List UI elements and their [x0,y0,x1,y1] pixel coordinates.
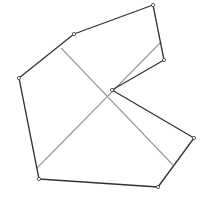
vertex-marker-8 [17,76,20,79]
vertex-marker-1 [72,32,75,35]
vertex-marker-6 [156,185,159,188]
diagonal-lines [37,42,173,168]
diagonal-line-2 [37,42,161,168]
diagonal-line-1 [61,48,173,165]
vertex-marker-2 [151,3,154,6]
vertex-marker-4 [110,88,113,91]
vertex-marker-7 [37,177,40,180]
vertex-marker-3 [162,58,165,61]
vertex-marker-5 [192,136,195,139]
polygon-diagram [0,0,205,198]
